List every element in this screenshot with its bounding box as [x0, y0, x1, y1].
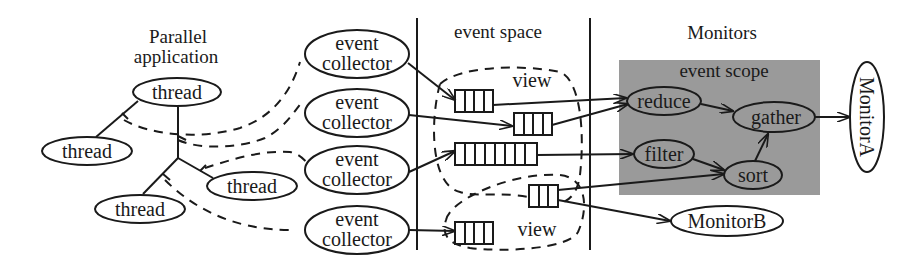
svg-text:collector: collector: [322, 228, 392, 250]
parallel-application-header: Parallel application: [134, 26, 219, 67]
svg-text:event: event: [335, 208, 379, 230]
svg-text:filter: filter: [645, 143, 684, 165]
monitors-header: Monitors: [687, 22, 757, 43]
svg-text:Parallel: Parallel: [149, 26, 207, 47]
svg-text:thread: thread: [62, 140, 112, 162]
svg-text:event: event: [335, 148, 379, 170]
svg-text:gather: gather: [751, 106, 801, 129]
event-queue: [514, 113, 552, 135]
svg-text:application: application: [134, 46, 219, 67]
view-label-top: view: [513, 69, 552, 91]
event-collector-node: event collector: [305, 30, 409, 78]
svg-text:MonitorB: MonitorB: [688, 210, 767, 232]
gather-node: gather: [733, 102, 815, 132]
event-space-header: event space: [454, 21, 542, 42]
event-queue: [455, 222, 493, 244]
thread-node: thread: [95, 195, 185, 223]
view-region-top: [434, 68, 582, 204]
svg-text:MonitorA: MonitorA: [856, 77, 878, 158]
thread-node: thread: [133, 78, 221, 106]
svg-text:reduce: reduce: [637, 90, 690, 112]
filter-node: filter: [634, 140, 694, 168]
monitor-b-node: MonitorB: [671, 206, 783, 236]
monitor-a-node: MonitorA: [850, 62, 884, 172]
svg-text:collector: collector: [322, 111, 392, 133]
event-scope-title: event scope: [679, 60, 768, 81]
svg-text:sort: sort: [738, 164, 768, 186]
view-label-bottom: view: [518, 218, 557, 240]
svg-text:thread: thread: [152, 81, 202, 103]
event-collector-node: event collector: [305, 146, 409, 194]
svg-text:thread: thread: [115, 198, 165, 220]
event-collector-node: event collector: [305, 89, 409, 137]
event-queue: [529, 185, 558, 207]
event-collector-node: event collector: [305, 206, 409, 254]
event-monitoring-diagram: Parallel application event space Monitor…: [0, 0, 918, 271]
event-queue: [455, 90, 493, 112]
reduce-node: reduce: [627, 87, 701, 115]
svg-text:collector: collector: [322, 52, 392, 74]
svg-text:event: event: [335, 32, 379, 54]
thread-node: thread: [42, 137, 132, 165]
sort-node: sort: [724, 161, 782, 189]
event-queue: [455, 143, 537, 165]
svg-text:collector: collector: [322, 168, 392, 190]
svg-text:thread: thread: [227, 175, 277, 197]
thread-node: thread: [207, 172, 297, 200]
svg-text:event: event: [335, 91, 379, 113]
